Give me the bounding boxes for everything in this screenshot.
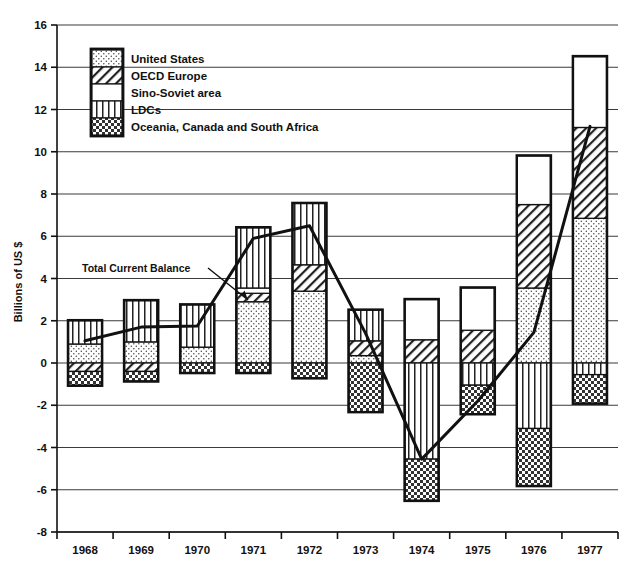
- y-tick-label: 16: [34, 19, 47, 31]
- legend-label-4: Oceania, Canada and South Africa: [131, 121, 319, 133]
- legend-swatch-0: [92, 50, 122, 67]
- y-tick-label: -6: [37, 484, 47, 496]
- y-tick-label: 2: [41, 315, 47, 327]
- bar-segment-1976-3: [517, 363, 550, 428]
- bar-segment-1968-0: [69, 344, 102, 363]
- x-axis-tick-labels: 1968196919701971197219731974197519761977: [72, 544, 602, 556]
- y-axis-title: Billions of US $: [12, 242, 24, 323]
- bar-segment-1970-4: [181, 363, 214, 373]
- bar-segment-1971-0: [237, 302, 270, 363]
- bar-segment-1969-4: [125, 371, 158, 381]
- bar-segment-1975-3: [461, 363, 494, 385]
- bar-segment-1971-4: [237, 363, 270, 373]
- legend-label-1: OECD Europe: [131, 70, 207, 82]
- legend-label-3: LDCs: [131, 104, 161, 116]
- bar-group-1976: [517, 155, 551, 486]
- bar-segment-1974-1: [405, 340, 438, 363]
- x-tick-label-1975: 1975: [465, 544, 491, 556]
- bar-group-1975: [461, 287, 495, 414]
- x-tick-label-1976: 1976: [521, 544, 547, 556]
- bar-segment-1970-0: [181, 347, 214, 363]
- bar-segment-1977-3: [573, 363, 606, 375]
- y-tick-label: 4: [41, 273, 48, 285]
- bar-segment-1972-0: [293, 291, 326, 363]
- bar-segment-1977-2: [573, 57, 606, 128]
- legend-label-2: Sino-Soviet area: [131, 87, 222, 99]
- bar-group-1970: [180, 304, 214, 373]
- x-tick-label-1970: 1970: [184, 544, 210, 556]
- legend-swatch-4: [92, 118, 122, 135]
- bar-segment-1975-1: [461, 330, 494, 363]
- bar-group-1974: [405, 299, 439, 501]
- legend-swatch-3: [92, 101, 122, 118]
- bar-segment-1974-2: [405, 300, 438, 340]
- y-tick-label: -4: [37, 442, 48, 454]
- stacked-bar-chart: 1614121086420-2-4-6-8 196819691970197119…: [0, 0, 626, 564]
- x-tick-label-1973: 1973: [353, 544, 379, 556]
- bar-segment-1968-1: [69, 363, 102, 371]
- y-tick-label: 14: [34, 61, 47, 73]
- y-tick-label: 10: [34, 146, 47, 158]
- chart-container: 1614121086420-2-4-6-8 196819691970197119…: [0, 0, 626, 564]
- bar-segment-1971-2: [237, 288, 270, 293]
- y-axis-ticks: [51, 25, 57, 532]
- x-tick-label-1968: 1968: [72, 544, 98, 556]
- bar-group-1971: [236, 227, 270, 373]
- legend-swatch-2: [92, 84, 122, 101]
- bar-segment-1973-1: [349, 341, 382, 356]
- bar-group-1969: [124, 300, 158, 381]
- bar-group-1977: [573, 56, 607, 404]
- bar-segment-1973-4: [349, 363, 382, 412]
- bar-segment-1969-1: [125, 363, 158, 371]
- bar-segment-1977-4: [573, 375, 606, 404]
- annotation-label: Total Current Balance: [82, 262, 190, 274]
- y-tick-label: 12: [34, 104, 47, 116]
- y-tick-label: -2: [37, 399, 47, 411]
- x-tick-label-1974: 1974: [409, 544, 435, 556]
- legend-label-0: United States: [131, 53, 205, 65]
- bar-segment-1976-2: [517, 156, 550, 205]
- bar-segment-1976-1: [517, 205, 550, 288]
- bar-segment-1972-4: [293, 363, 326, 378]
- bar-segment-1968-4: [69, 371, 102, 385]
- bar-segment-1972-3: [293, 204, 326, 265]
- y-tick-label: 8: [41, 188, 48, 200]
- bar-segment-1974-4: [405, 459, 438, 500]
- y-axis-tick-labels: 1614121086420-2-4-6-8: [34, 19, 47, 538]
- x-tick-label-1972: 1972: [297, 544, 323, 556]
- bar-segment-1975-2: [461, 288, 494, 330]
- x-tick-label-1969: 1969: [128, 544, 154, 556]
- bar-segment-1969-3: [125, 301, 158, 342]
- legend-swatch-1: [92, 67, 122, 84]
- y-tick-label: -8: [37, 526, 48, 538]
- y-tick-label: 0: [41, 357, 47, 369]
- y-tick-label: 6: [41, 230, 47, 242]
- x-axis-ticks: [57, 532, 618, 539]
- bar-group-1968: [68, 320, 102, 386]
- x-tick-label-1971: 1971: [241, 544, 267, 556]
- bar-segment-1972-1: [293, 265, 326, 291]
- bar-segment-1969-0: [125, 342, 158, 363]
- bar-segment-1976-0: [517, 288, 550, 363]
- bar-segment-1974-3: [405, 363, 438, 459]
- bar-segment-1977-0: [573, 218, 606, 363]
- bar-segment-1976-4: [517, 428, 550, 485]
- x-tick-label-1977: 1977: [577, 544, 603, 556]
